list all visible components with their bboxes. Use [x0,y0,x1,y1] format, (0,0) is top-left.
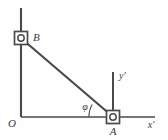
label-point-a: A [109,125,117,137]
label-origin: O [8,117,16,129]
diagram-figure: B A O x' y' φ [0,0,168,140]
diagram-canvas: B A O x' y' φ [0,0,168,140]
pin-joint-b-icon [18,35,24,41]
label-axis-y-prime: y' [118,70,126,81]
label-point-b: B [33,31,40,43]
connecting-rod-ab [22,39,112,116]
pin-joint-a-icon [110,114,116,120]
angle-arc-phi [89,105,92,117]
label-angle-phi: φ [82,101,88,112]
slider-block-a [107,111,120,124]
slider-block-b [15,32,28,45]
label-axis-x-prime: x' [147,119,155,130]
